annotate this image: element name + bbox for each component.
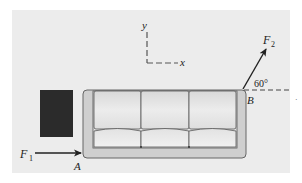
force-diagram: y x F 1 A F 2 60° B · <box>0 0 302 183</box>
coordinate-axes: y x <box>141 19 185 68</box>
angle-label: 60° <box>254 78 268 89</box>
stray-dot: · <box>295 95 298 104</box>
force-f2: F 2 60° B <box>243 33 290 106</box>
x-axis-label: x <box>179 56 185 68</box>
f2-subscript: 2 <box>271 40 275 49</box>
dark-block <box>40 90 73 137</box>
f2-label: F <box>262 33 271 47</box>
point-a-label: A <box>73 160 81 172</box>
sofa <box>83 90 246 158</box>
f1-subscript: 1 <box>29 154 33 163</box>
f1-label: F <box>19 147 28 161</box>
force-f1: F 1 A <box>19 147 81 172</box>
point-b-label: B <box>247 94 254 106</box>
y-axis-label: y <box>141 19 147 31</box>
